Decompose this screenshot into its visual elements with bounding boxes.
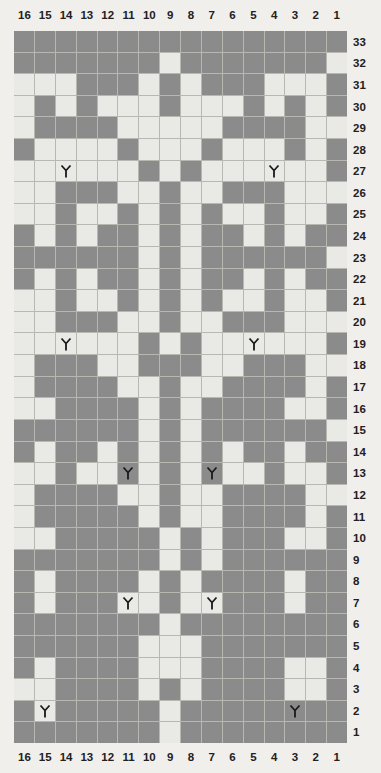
chart-cell-r22-c15[interactable] (35, 269, 55, 290)
chart-cell-r19-c11[interactable] (118, 333, 138, 354)
chart-cell-r28-c3[interactable] (285, 139, 305, 160)
chart-cell-r25-c1[interactable] (327, 204, 347, 225)
chart-cell-r32-c8[interactable] (181, 53, 201, 74)
chart-cell-r10-c16[interactable] (14, 528, 34, 549)
chart-cell-r12-c6[interactable] (223, 485, 243, 506)
chart-cell-r16-c3[interactable] (285, 398, 305, 419)
chart-cell-r14-c6[interactable] (223, 442, 243, 463)
chart-cell-r14-c5[interactable] (244, 442, 264, 463)
chart-cell-r2-c6[interactable] (223, 701, 243, 722)
chart-cell-r28-c16[interactable] (14, 139, 34, 160)
chart-cell-r6-c11[interactable] (118, 614, 138, 635)
chart-cell-r10-c11[interactable] (118, 528, 138, 549)
chart-cell-r25-c3[interactable] (285, 204, 305, 225)
chart-cell-r25-c2[interactable] (306, 204, 326, 225)
chart-cell-r24-c11[interactable] (118, 225, 138, 246)
chart-cell-r15-c16[interactable] (14, 420, 34, 441)
chart-cell-r21-c5[interactable] (244, 290, 264, 311)
chart-cell-r25-c12[interactable] (98, 204, 118, 225)
chart-cell-r3-c3[interactable] (285, 679, 305, 700)
chart-cell-r4-c12[interactable] (98, 658, 118, 679)
chart-cell-r17-c8[interactable] (181, 377, 201, 398)
chart-cell-r22-c2[interactable] (306, 269, 326, 290)
chart-cell-r7-c8[interactable] (181, 593, 201, 614)
chart-cell-r9-c12[interactable] (98, 550, 118, 571)
chart-cell-r15-c10[interactable] (139, 420, 159, 441)
chart-cell-r4-c11[interactable] (118, 658, 138, 679)
chart-cell-r20-c12[interactable] (98, 312, 118, 333)
chart-cell-r19-c4[interactable] (265, 333, 285, 354)
chart-cell-r32-c16[interactable] (14, 53, 34, 74)
chart-cell-r30-c10[interactable] (139, 96, 159, 117)
chart-cell-r6-c16[interactable] (14, 614, 34, 635)
chart-cell-r32-c15[interactable] (35, 53, 55, 74)
chart-cell-r10-c7[interactable] (202, 528, 222, 549)
chart-cell-r11-c13[interactable] (77, 506, 97, 527)
chart-cell-r3-c1[interactable] (327, 679, 347, 700)
chart-cell-r7-c5[interactable] (244, 593, 264, 614)
chart-cell-r24-c5[interactable] (244, 225, 264, 246)
chart-cell-r23-c15[interactable] (35, 247, 55, 268)
chart-cell-r12-c2[interactable] (306, 485, 326, 506)
chart-cell-r6-c1[interactable] (327, 614, 347, 635)
chart-cell-r12-c3[interactable] (285, 485, 305, 506)
chart-cell-r33-c16[interactable] (14, 31, 34, 52)
chart-cell-r26-c4[interactable] (265, 182, 285, 203)
chart-cell-r14-c11[interactable] (118, 442, 138, 463)
chart-cell-r22-c13[interactable] (77, 269, 97, 290)
chart-cell-r22-c5[interactable] (244, 269, 264, 290)
chart-cell-r9-c11[interactable] (118, 550, 138, 571)
chart-cell-r20-c7[interactable] (202, 312, 222, 333)
chart-cell-r1-c15[interactable] (35, 722, 55, 743)
chart-cell-r8-c15[interactable] (35, 571, 55, 592)
chart-cell-r5-c15[interactable] (35, 636, 55, 657)
chart-cell-r1-c5[interactable] (244, 722, 264, 743)
chart-cell-r33-c13[interactable] (77, 31, 97, 52)
chart-cell-r21-c4[interactable] (265, 290, 285, 311)
chart-cell-r28-c8[interactable] (181, 139, 201, 160)
chart-cell-r32-c12[interactable] (98, 53, 118, 74)
chart-cell-r23-c14[interactable] (56, 247, 76, 268)
chart-cell-r20-c4[interactable] (265, 312, 285, 333)
chart-cell-r26-c1[interactable] (327, 182, 347, 203)
chart-cell-r15-c4[interactable] (265, 420, 285, 441)
chart-cell-r22-c1[interactable] (327, 269, 347, 290)
chart-cell-r31-c10[interactable] (139, 74, 159, 95)
chart-cell-r10-c2[interactable] (306, 528, 326, 549)
chart-cell-r6-c7[interactable] (202, 614, 222, 635)
chart-cell-r31-c12[interactable] (98, 74, 118, 95)
chart-cell-r24-c13[interactable] (77, 225, 97, 246)
chart-cell-r1-c8[interactable] (181, 722, 201, 743)
chart-cell-r30-c8[interactable] (181, 96, 201, 117)
chart-cell-r29-c7[interactable] (202, 117, 222, 138)
chart-cell-r9-c9[interactable] (160, 550, 180, 571)
chart-cell-r22-c11[interactable] (118, 269, 138, 290)
chart-cell-r33-c12[interactable] (98, 31, 118, 52)
chart-cell-r9-c15[interactable] (35, 550, 55, 571)
chart-cell-r15-c6[interactable] (223, 420, 243, 441)
chart-cell-r5-c5[interactable] (244, 636, 264, 657)
chart-cell-r12-c9[interactable] (160, 485, 180, 506)
chart-cell-r15-c14[interactable] (56, 420, 76, 441)
chart-cell-r29-c2[interactable] (306, 117, 326, 138)
chart-cell-r33-c10[interactable] (139, 31, 159, 52)
chart-cell-r8-c11[interactable] (118, 571, 138, 592)
chart-cell-r15-c2[interactable] (306, 420, 326, 441)
chart-cell-r3-c15[interactable] (35, 679, 55, 700)
chart-cell-r13-c1[interactable] (327, 463, 347, 484)
chart-cell-r8-c6[interactable] (223, 571, 243, 592)
chart-cell-r11-c9[interactable] (160, 506, 180, 527)
chart-cell-r18-c8[interactable] (181, 355, 201, 376)
chart-cell-r20-c3[interactable] (285, 312, 305, 333)
chart-cell-r29-c14[interactable] (56, 117, 76, 138)
chart-cell-r16-c15[interactable] (35, 398, 55, 419)
chart-cell-r5-c1[interactable] (327, 636, 347, 657)
chart-cell-r17-c11[interactable] (118, 377, 138, 398)
chart-cell-r4-c15[interactable] (35, 658, 55, 679)
chart-cell-r10-c8[interactable] (181, 528, 201, 549)
chart-cell-r20-c9[interactable] (160, 312, 180, 333)
chart-cell-r11-c12[interactable] (98, 506, 118, 527)
chart-cell-r7-c4[interactable] (265, 593, 285, 614)
chart-cell-r16-c8[interactable] (181, 398, 201, 419)
chart-cell-r18-c5[interactable] (244, 355, 264, 376)
